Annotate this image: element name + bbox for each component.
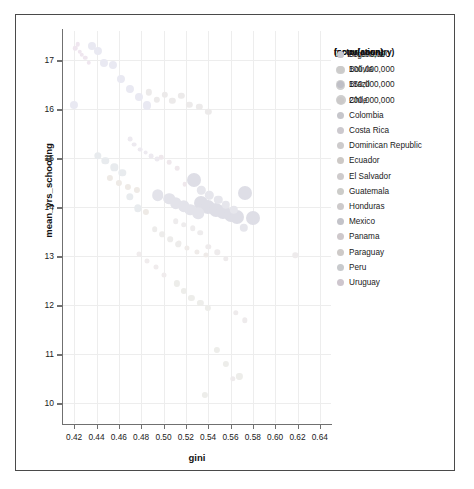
data-point <box>190 225 196 231</box>
legend-item[interactable]: Guatemala <box>334 184 422 199</box>
legend-item[interactable]: Costa Rica <box>334 123 422 138</box>
data-point <box>70 100 78 108</box>
legend-item-label: Honduras <box>349 202 385 211</box>
plot-panel <box>63 31 331 423</box>
y-axis-line <box>62 29 63 425</box>
data-point <box>223 361 229 367</box>
data-point <box>125 184 131 190</box>
data-point <box>111 164 118 171</box>
legend-key-icon <box>334 127 347 134</box>
data-point <box>119 169 126 176</box>
legend-item-label: Panama <box>349 232 380 241</box>
legend-item[interactable]: Paraguay <box>334 244 422 259</box>
data-point <box>146 89 152 95</box>
x-axis-tick <box>164 424 165 429</box>
x-axis-tick <box>74 424 75 429</box>
legend-item-label: Costa Rica <box>349 126 389 135</box>
x-axis-tick-label: 0.54 <box>200 432 216 442</box>
data-point <box>181 222 187 228</box>
data-point <box>126 193 133 200</box>
data-point <box>169 97 175 103</box>
data-point <box>160 232 166 238</box>
data-point <box>194 249 199 254</box>
data-point <box>86 61 91 66</box>
data-point <box>143 101 151 109</box>
legend-key-icon <box>334 264 347 271</box>
x-axis-tick-label: 0.52 <box>178 432 194 442</box>
data-point <box>246 211 260 225</box>
legend-item[interactable]: Peru <box>334 260 422 275</box>
legend-key-icon <box>334 157 347 164</box>
legend-item[interactable]: Uruguay <box>334 275 422 290</box>
x-axis-line <box>62 424 332 425</box>
data-point <box>205 244 210 249</box>
y-axis-tick <box>57 60 62 61</box>
legend-item-label: Uruguay <box>349 278 380 287</box>
legend-item-label: Guatemala <box>349 187 389 196</box>
legend-key-icon <box>334 249 347 256</box>
gridline-vertical <box>164 31 165 423</box>
data-point <box>233 310 238 315</box>
legend-item-label: Brazil <box>349 80 369 89</box>
x-axis-tick <box>97 424 98 429</box>
legend-item[interactable]: Honduras <box>334 199 422 214</box>
legend-item[interactable]: Brazil <box>334 77 422 92</box>
data-point <box>238 186 252 200</box>
x-axis-tick-label: 0.44 <box>88 432 104 442</box>
x-axis-tick <box>253 424 254 429</box>
data-point <box>186 101 192 107</box>
data-point <box>240 224 248 232</box>
legend-key-icon <box>334 188 347 195</box>
x-axis-tick-label: 0.60 <box>267 432 283 442</box>
data-point <box>242 317 247 322</box>
gridline-horizontal <box>63 256 331 257</box>
data-point <box>198 230 204 236</box>
data-point <box>188 295 194 301</box>
legend-item[interactable]: Dominican Republic <box>334 138 422 153</box>
data-point <box>187 173 201 187</box>
legend-item[interactable]: Bolivia <box>334 62 422 77</box>
data-point <box>174 280 180 286</box>
legend-item[interactable]: Ecuador <box>334 153 422 168</box>
data-point <box>144 259 149 264</box>
data-point <box>154 96 160 102</box>
legend-key-icon <box>334 173 347 180</box>
data-point <box>116 180 122 186</box>
data-point <box>184 245 189 250</box>
legend-key-icon <box>334 203 347 210</box>
data-point <box>128 136 133 141</box>
x-axis-tick-label: 0.48 <box>133 432 149 442</box>
gridline-horizontal <box>63 403 331 404</box>
data-point <box>205 191 213 199</box>
y-axis-tick-label: 15 <box>16 153 54 163</box>
gridline-vertical <box>253 31 254 423</box>
data-point <box>152 227 158 233</box>
gridline-vertical <box>275 31 276 423</box>
legend-item[interactable]: Chile <box>334 93 422 108</box>
data-point <box>223 256 228 261</box>
data-point <box>167 160 172 165</box>
gridline-horizontal <box>63 354 331 355</box>
data-point <box>154 157 159 162</box>
x-axis-tick-label: 0.64 <box>312 432 328 442</box>
legend-key-icon <box>334 66 347 73</box>
legend-item[interactable]: Panama <box>334 229 422 244</box>
y-axis-tick <box>57 207 62 208</box>
legend-key-icon <box>334 81 347 88</box>
legend-item[interactable]: Mexico <box>334 214 422 229</box>
legend-item-label: Mexico <box>349 217 375 226</box>
x-axis-tick <box>320 424 321 429</box>
x-axis-tick-label: 0.58 <box>245 432 261 442</box>
data-point <box>205 109 211 115</box>
data-point <box>149 154 154 159</box>
y-axis-title: mean_yrs_schooling <box>43 111 54 271</box>
legend-item[interactable]: Colombia <box>334 108 422 123</box>
legend-item[interactable]: El Salvador <box>334 169 422 184</box>
gridline-vertical <box>119 31 120 423</box>
y-axis-tick <box>57 256 62 257</box>
gridline-vertical <box>74 31 75 423</box>
gridline-vertical <box>97 31 98 423</box>
data-point <box>83 56 88 61</box>
legend-key-icon <box>334 279 347 286</box>
legend-item-label: El Salvador <box>349 172 391 181</box>
